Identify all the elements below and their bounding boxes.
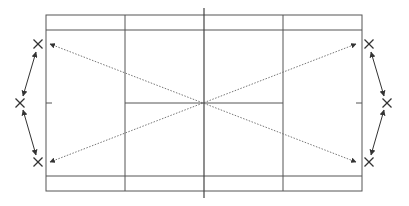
x-mark-icon xyxy=(365,158,374,167)
x-mark-icon xyxy=(365,40,374,49)
x-mark-icon xyxy=(34,158,43,167)
double-arrow-right-lower xyxy=(371,110,384,155)
court xyxy=(46,8,362,198)
double-arrow-right-upper xyxy=(371,52,384,96)
double-arrow-left-upper xyxy=(23,52,36,96)
court-diagram xyxy=(0,0,409,206)
x-mark-icon xyxy=(34,40,43,49)
x-mark-icon xyxy=(383,99,392,108)
x-mark-icon xyxy=(16,99,25,108)
double-arrow-left-lower xyxy=(23,110,36,155)
